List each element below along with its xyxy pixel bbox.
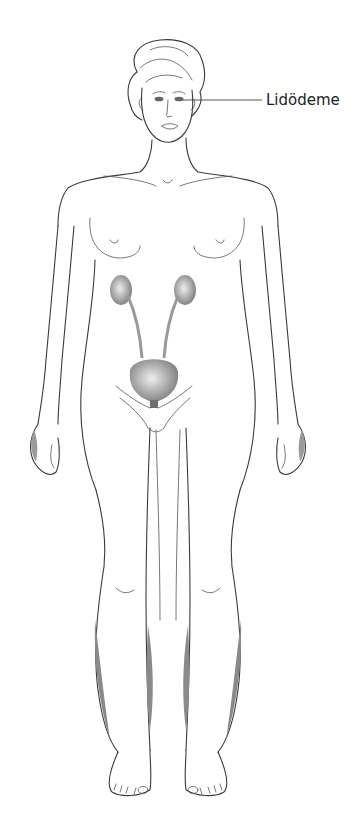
label-text: Lidödeme xyxy=(266,91,340,109)
urinary-system xyxy=(110,275,196,408)
left-ureter xyxy=(128,296,142,358)
urethra xyxy=(150,400,158,408)
legs xyxy=(95,428,241,752)
right-leg-inner-edema xyxy=(183,625,189,730)
arms xyxy=(31,226,306,474)
label-lidoedeme: Lidödeme xyxy=(183,91,340,109)
torso xyxy=(58,138,278,490)
left-leg-inner-edema xyxy=(147,625,153,730)
head xyxy=(128,40,205,143)
bladder xyxy=(130,359,178,402)
left-eye xyxy=(155,97,164,102)
right-eye xyxy=(175,97,184,102)
female-body-diagram: Lidödeme xyxy=(0,0,362,814)
feet xyxy=(109,750,227,796)
right-ureter xyxy=(164,296,178,358)
